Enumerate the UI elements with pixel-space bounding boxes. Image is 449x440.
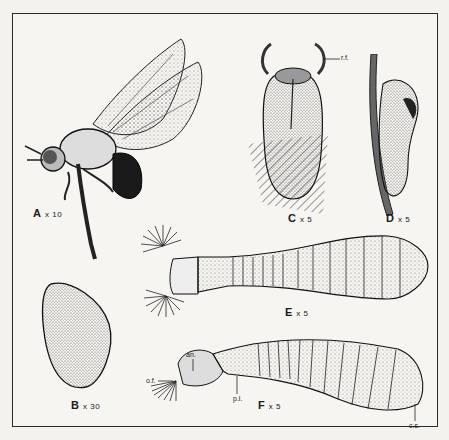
figure-f-larva-lateral: an. o.f. p.l. c.s. Fx 5 (138, 329, 438, 429)
figure-letter: D (386, 212, 394, 224)
magnification: x 5 (269, 402, 281, 411)
figure-letter: B (71, 399, 79, 411)
annotation-an: an. (186, 351, 196, 358)
figure-d-puparium-lateral: Dx 5 (363, 54, 433, 224)
magnification: x 5 (300, 215, 312, 224)
figure-plate: Ax 10 r.f. Cx 5 Dx (12, 13, 438, 427)
magnification: x 5 (296, 309, 308, 318)
figure-c-puparium-dorsal: r.f. Cx 5 (243, 34, 353, 224)
figure-f-label: Fx 5 (258, 399, 281, 411)
puparium-dorsal-illustration (243, 34, 353, 224)
figure-b-label: Bx 30 (71, 399, 100, 411)
annotation-of: o.f. (146, 377, 156, 384)
larva-lateral-illustration (138, 329, 438, 429)
figure-d-label: Dx 5 (386, 212, 410, 224)
figure-a-label: Ax 10 (33, 207, 62, 219)
figure-letter: F (258, 399, 265, 411)
figure-letter: A (33, 207, 41, 219)
magnification: x 5 (398, 215, 410, 224)
magnification: x 10 (45, 210, 62, 219)
annotation-pl: p.l. (233, 395, 242, 402)
annotation-rf: r.f. (341, 54, 349, 61)
figure-letter: E (285, 306, 292, 318)
figure-c-label: Cx 5 (288, 212, 312, 224)
figure-e-label: Ex 5 (285, 306, 309, 318)
magnification: x 30 (83, 402, 100, 411)
egg-illustration (31, 279, 131, 419)
puparium-lateral-illustration (363, 54, 433, 224)
figure-letter: C (288, 212, 296, 224)
figure-b-egg: Bx 30 (31, 279, 131, 419)
annotation-cs: c.s. (409, 422, 420, 429)
figure-e-larva-dorsal: Ex 5 (138, 224, 438, 324)
